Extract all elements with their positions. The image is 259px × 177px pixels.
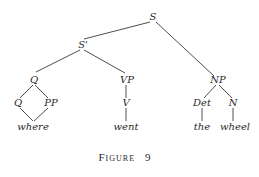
edge-s-sprime — [84, 22, 150, 39]
node-n: N — [229, 98, 238, 108]
edge-sprime-q — [36, 50, 80, 72]
edge-q-qchild — [20, 85, 33, 98]
leaf-wheel: wheel — [220, 122, 250, 132]
caption-number: 9 — [145, 151, 152, 163]
node-v: V — [122, 98, 129, 108]
node-np: NP — [210, 75, 225, 85]
node-q: Q — [30, 75, 38, 85]
edge-s-np — [156, 22, 214, 76]
edge-pp-where — [34, 108, 48, 121]
node-det: Det — [193, 98, 211, 108]
node-s-prime: S' — [78, 40, 88, 50]
node-vp: VP — [120, 75, 134, 85]
node-q-child: Q — [14, 98, 22, 108]
edge-sprime-vp — [84, 50, 125, 73]
leaf-the: the — [194, 122, 210, 132]
edge-qchild-where — [20, 108, 33, 121]
figure-caption: Figure9 — [98, 151, 151, 163]
leaf-where: where — [17, 122, 49, 132]
caption-word: Figure — [98, 151, 135, 163]
node-pp: PP — [44, 98, 57, 108]
leaf-went: went — [114, 122, 139, 132]
node-s: S — [150, 12, 157, 22]
